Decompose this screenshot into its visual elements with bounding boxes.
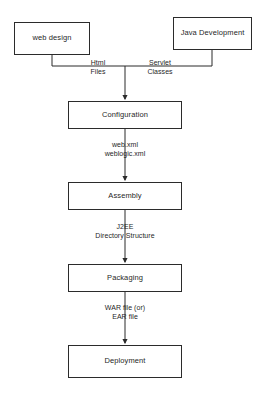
edge-label-j2ee-directory-structure-line-2: Directory Structure xyxy=(65,232,185,241)
edge-label-j2ee-directory-structure-line-1: J2EE xyxy=(65,223,185,232)
node-web-design-label: web design xyxy=(33,34,72,42)
edge-label-war-ear-file: WAR file (or) EAR file xyxy=(65,304,185,321)
edge-label-web-xml: web.xml weblogic.xml xyxy=(65,141,185,158)
edge-label-servlet-classes-line-1: Servlet xyxy=(131,59,189,68)
edge-label-j2ee-directory-structure: J2EE Directory Structure xyxy=(65,223,185,240)
edge-label-html-files: Html Files xyxy=(72,59,124,76)
node-assembly[interactable]: Assembly xyxy=(68,182,182,210)
edge-label-war-ear-file-line-1: WAR file (or) xyxy=(65,304,185,313)
node-deployment[interactable]: Deployment xyxy=(68,345,182,378)
flowchart-diagram: web design Java Development Configuratio… xyxy=(0,0,260,396)
edge-label-servlet-classes-line-2: Classes xyxy=(131,68,189,77)
node-java-development-label: Java Development xyxy=(181,29,245,37)
node-web-design[interactable]: web design xyxy=(14,22,90,55)
edge-label-web-xml-line-1: web.xml xyxy=(65,141,185,150)
node-configuration[interactable]: Configuration xyxy=(68,101,182,129)
node-assembly-label: Assembly xyxy=(108,192,141,200)
edge-label-servlet-classes: Servlet Classes xyxy=(131,59,189,76)
edge-label-html-files-line-2: Files xyxy=(72,68,124,77)
node-packaging-label: Packaging xyxy=(107,274,143,282)
edge-label-web-xml-line-2: weblogic.xml xyxy=(65,150,185,159)
edge-label-html-files-line-1: Html xyxy=(72,59,124,68)
node-packaging[interactable]: Packaging xyxy=(68,264,182,292)
node-configuration-label: Configuration xyxy=(102,111,148,119)
edge-label-war-ear-file-line-2: EAR file xyxy=(65,313,185,322)
node-deployment-label: Deployment xyxy=(104,357,145,365)
node-java-development[interactable]: Java Development xyxy=(173,17,252,50)
